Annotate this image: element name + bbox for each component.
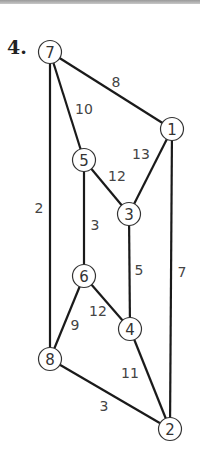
edge-weight-7-1: 8 bbox=[112, 74, 121, 90]
node-label: 2 bbox=[165, 421, 175, 439]
node-1: 1 bbox=[161, 118, 184, 141]
edge-3-4 bbox=[129, 214, 130, 329]
edge-weight-3-4: 5 bbox=[135, 262, 144, 278]
edge-7-1 bbox=[50, 52, 172, 129]
edge-weight-4-2: 11 bbox=[121, 365, 139, 381]
edge-1-3 bbox=[129, 129, 172, 214]
node-7: 7 bbox=[39, 41, 62, 64]
weighted-graph: 81021371235129113 71536482 bbox=[0, 0, 200, 458]
nodes-layer: 71536482 bbox=[39, 41, 184, 441]
edge-weight-8-2: 3 bbox=[100, 398, 109, 414]
node-8: 8 bbox=[39, 348, 62, 371]
edge-8-2 bbox=[50, 359, 170, 429]
node-3: 3 bbox=[118, 203, 141, 226]
edge-weight-7-8: 2 bbox=[35, 200, 44, 216]
edge-weight-6-8: 9 bbox=[71, 317, 80, 333]
node-6: 6 bbox=[73, 265, 96, 288]
edge-weight-5-6: 3 bbox=[91, 217, 100, 233]
node-4: 4 bbox=[119, 318, 142, 341]
edges-layer bbox=[50, 52, 172, 429]
node-label: 7 bbox=[45, 44, 55, 62]
edge-weight-6-4: 12 bbox=[89, 303, 107, 319]
node-label: 3 bbox=[124, 206, 134, 224]
node-label: 4 bbox=[125, 321, 135, 339]
edge-weight-7-5: 10 bbox=[75, 101, 93, 117]
node-2: 2 bbox=[159, 418, 182, 441]
node-5: 5 bbox=[73, 149, 96, 172]
node-label: 6 bbox=[79, 268, 89, 286]
edge-1-2 bbox=[170, 129, 172, 429]
node-label: 5 bbox=[79, 152, 89, 170]
edge-weight-1-2: 7 bbox=[178, 264, 187, 280]
edge-weight-1-3: 13 bbox=[132, 146, 150, 162]
node-label: 1 bbox=[167, 121, 177, 139]
node-label: 8 bbox=[45, 351, 55, 369]
edge-weight-5-3: 12 bbox=[108, 168, 126, 184]
